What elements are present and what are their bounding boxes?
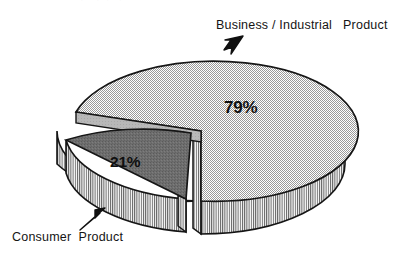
slice-consumer-product — [66, 129, 191, 232]
percent-label-consumer: 21% — [110, 154, 140, 170]
pie-chart-figure: Business / Industrial Product Consumer P… — [0, 0, 402, 262]
label-consumer-product: Consumer Product — [12, 231, 123, 244]
percent-label-business-industrial: 79% — [224, 99, 257, 116]
label-business-industrial-product: Business / Industrial Product — [216, 19, 388, 32]
callout-arrow-consumer — [80, 208, 105, 230]
pie-chart-svg — [0, 0, 402, 262]
slice-business-notch-wall — [193, 128, 201, 234]
slice-consumer-radial-wall — [178, 195, 186, 232]
callout-arrow-business — [224, 36, 243, 54]
